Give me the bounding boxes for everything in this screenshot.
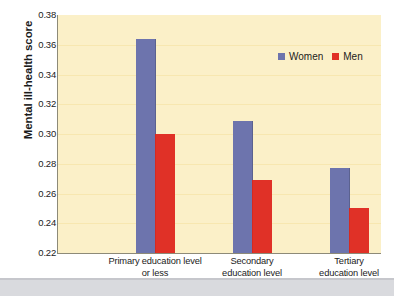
x-axis-label-line: Tertiary	[287, 256, 394, 268]
page-strip-edge	[0, 278, 394, 280]
legend-entry-men[interactable]: Men	[332, 51, 362, 62]
bar-women[interactable]	[330, 168, 350, 253]
legend-swatch-icon	[278, 53, 285, 60]
bar-men[interactable]	[349, 208, 369, 253]
bar-women[interactable]	[136, 39, 156, 253]
legend-label: Men	[343, 51, 362, 62]
legend-entry-women[interactable]: Women	[278, 51, 323, 62]
y-axis-tick-label: 0.26	[22, 188, 56, 199]
y-axis-tick-label: 0.30	[22, 128, 56, 139]
chart-figure: Mental ill-health score 0.380.360.340.32…	[0, 0, 394, 296]
bar-men[interactable]	[155, 134, 175, 253]
x-axis-label: Tertiaryeducation level	[287, 256, 394, 279]
y-axis-tick-label: 0.28	[22, 158, 56, 169]
y-axis-tick-label: 0.34	[22, 69, 56, 80]
y-axis-tick-labels: 0.380.360.340.320.300.280.260.240.22	[22, 0, 56, 296]
bar-women[interactable]	[233, 121, 253, 253]
y-axis-tick-label: 0.24	[22, 217, 56, 228]
legend-swatch-icon	[332, 53, 339, 60]
y-axis-line	[57, 15, 58, 254]
bar-men[interactable]	[252, 180, 272, 253]
page-bottom-strip	[0, 278, 394, 296]
bar-group	[233, 15, 272, 253]
chart-legend: WomenMen	[278, 51, 363, 62]
bar-group	[136, 15, 175, 253]
y-axis-tick-label: 0.32	[22, 98, 56, 109]
x-axis-line	[58, 253, 381, 254]
legend-label: Women	[289, 51, 323, 62]
y-axis-tick-label: 0.22	[22, 247, 56, 258]
y-axis-tick-label: 0.36	[22, 39, 56, 50]
y-axis-tick-label: 0.38	[22, 9, 56, 20]
